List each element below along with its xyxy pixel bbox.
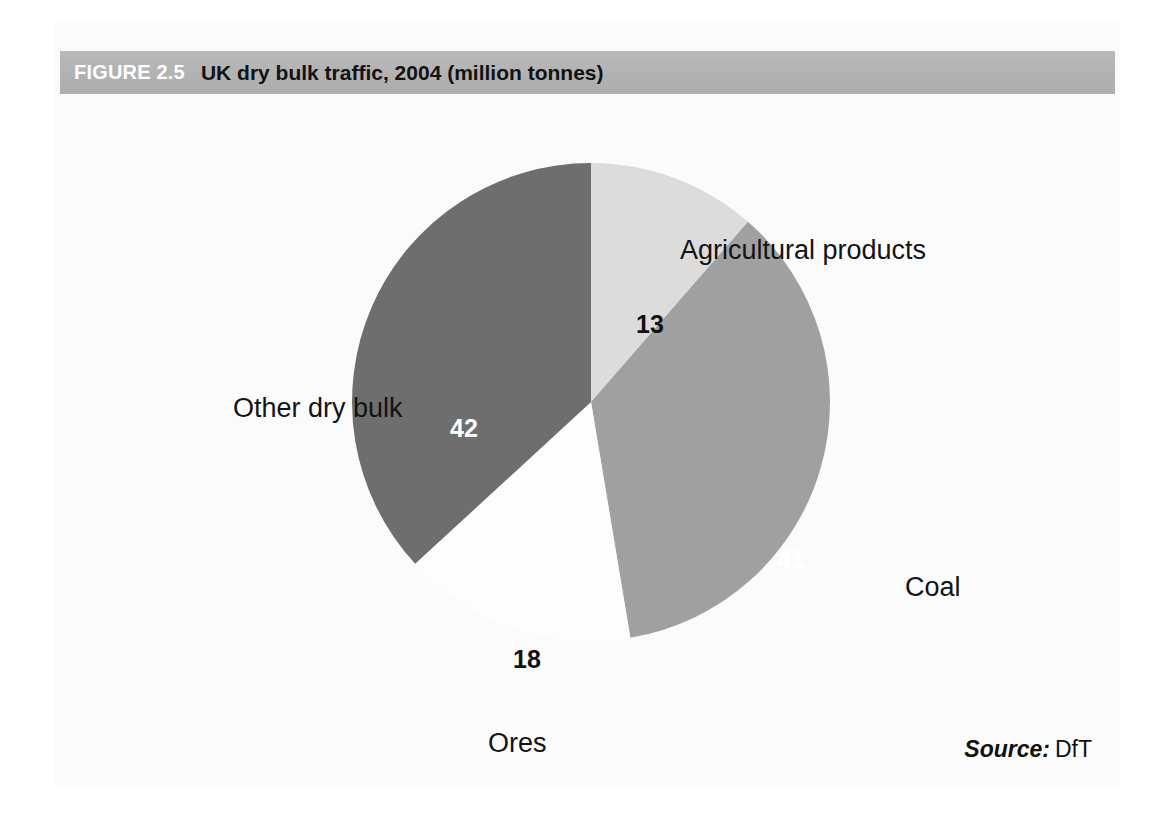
source-line: Source:DfT [60, 736, 1092, 763]
pie-value-other-dry-bulk: 42 [450, 414, 478, 443]
pie-value-ores: 18 [513, 645, 541, 674]
figure-number: FIGURE 2.5 [74, 61, 185, 84]
pie-value-coal: 41 [777, 545, 805, 574]
pie-label-agricultural-products: Agricultural products [680, 235, 926, 266]
pie-chart: 13 41 18 42 Agricultural products Coal O… [60, 94, 1115, 694]
pie-chart-svg [60, 94, 1115, 694]
figure-panel: FIGURE 2.5 UK dry bulk traffic, 2004 (mi… [0, 0, 1158, 833]
source-label: Source: [964, 736, 1050, 762]
pie-label-other-dry-bulk: Other dry bulk [233, 393, 403, 424]
pie-label-coal: Coal [905, 572, 961, 603]
source-value: DfT [1055, 736, 1092, 762]
figure-title: UK dry bulk traffic, 2004 (million tonne… [201, 61, 604, 85]
figure-title-bar: FIGURE 2.5 UK dry bulk traffic, 2004 (mi… [60, 51, 1115, 94]
pie-value-agricultural-products: 13 [636, 310, 664, 339]
